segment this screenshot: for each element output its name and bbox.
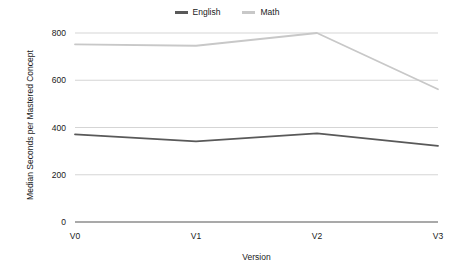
y-tick-label: 0	[28, 217, 66, 227]
series-line-math	[75, 33, 438, 89]
series-line-english	[75, 133, 438, 146]
y-tick-label: 800	[28, 28, 66, 38]
line-chart: English Math 0200400600800 V0V1V2V3 Vers…	[0, 0, 454, 274]
y-axis-label: Median Seconds per Mastered Concept	[25, 45, 35, 205]
gridlines	[75, 33, 438, 175]
x-axis-label: Version	[75, 252, 438, 262]
x-tick-label: V2	[297, 231, 337, 241]
series-lines	[75, 33, 438, 146]
x-tick-label: V1	[176, 231, 216, 241]
x-tick-label: V3	[418, 231, 454, 241]
x-tick-label: V0	[55, 231, 95, 241]
